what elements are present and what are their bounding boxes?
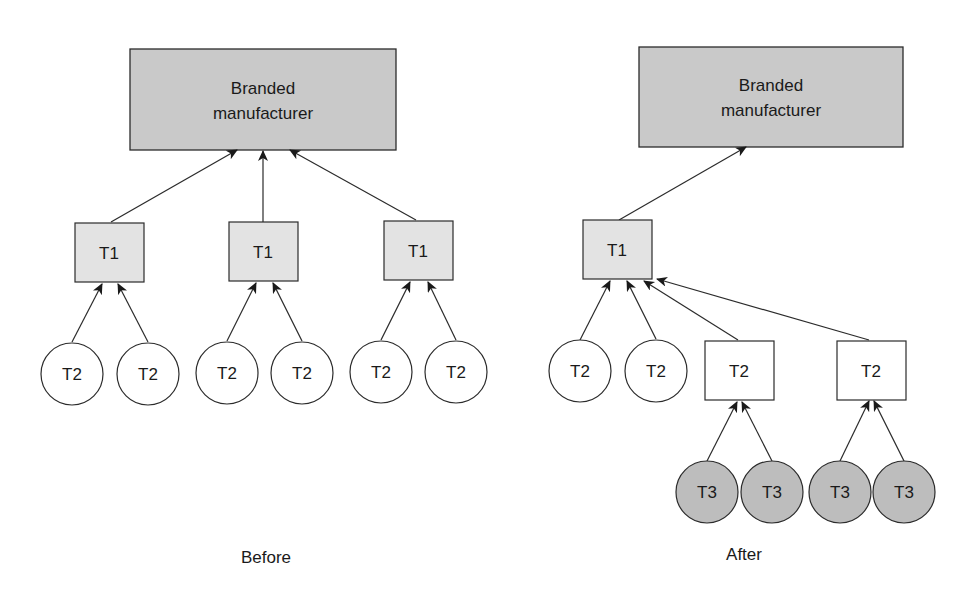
after-t2-circle-node-1: T2 — [549, 340, 611, 402]
after-t2-box-node-2: T2 — [837, 341, 906, 400]
after-t3-node-3: T3 — [809, 461, 871, 523]
before-t2-node-2: T2 — [117, 343, 179, 405]
before-t1-label-3: T1 — [408, 242, 428, 261]
after-t2-circle-label-2: T2 — [646, 362, 666, 381]
after-t1-edge — [619, 147, 746, 220]
before-t2-label-2: T2 — [138, 365, 158, 384]
after-t3-label-2: T3 — [762, 483, 782, 502]
after-t2-box-label-1: T2 — [729, 362, 749, 381]
supplier-network-diagram: Branded manufacturer T1 T1 T1 — [0, 0, 966, 590]
after-caption: After — [726, 545, 762, 564]
before-t1-node-1: T1 — [75, 223, 144, 282]
before-caption: Before — [241, 548, 291, 567]
before-t1-edges — [111, 150, 416, 222]
after-t2-box-label-2: T2 — [861, 362, 881, 381]
before-t1-node-3: T1 — [384, 221, 453, 280]
before-t1-label-2: T1 — [253, 243, 273, 262]
after-t3-node-1: T3 — [676, 461, 738, 523]
before-t2-label-5: T2 — [371, 363, 391, 382]
before-manufacturer-line1: Branded — [231, 79, 295, 98]
before-t2-node-3: T2 — [196, 342, 258, 404]
before-t2-label-3: T2 — [217, 364, 237, 383]
after-manufacturer-line2: manufacturer — [721, 101, 821, 120]
after-t1-label: T1 — [607, 241, 627, 260]
before-t2-node-6: T2 — [425, 341, 487, 403]
before-t2-label-6: T2 — [446, 363, 466, 382]
after-t2-circle-node-2: T2 — [625, 340, 687, 402]
after-t3-label-1: T3 — [697, 483, 717, 502]
before-t1-label-1: T1 — [99, 244, 119, 263]
after-t3-label-4: T3 — [894, 483, 914, 502]
before-manufacturer-line2: manufacturer — [213, 104, 313, 123]
after-t3-edges — [707, 401, 904, 461]
after-t2-edges — [580, 279, 869, 340]
after-t2-circle-label-1: T2 — [570, 362, 590, 381]
after-panel: Branded manufacturer T1 T2 T2 — [549, 47, 935, 564]
before-t2-label-1: T2 — [62, 365, 82, 384]
before-panel: Branded manufacturer T1 T1 T1 — [41, 49, 487, 567]
after-t3-label-3: T3 — [830, 483, 850, 502]
after-t1-node: T1 — [583, 220, 652, 279]
before-t2-node-1: T2 — [41, 343, 103, 405]
after-manufacturer-node: Branded manufacturer — [639, 47, 903, 147]
before-manufacturer-node: Branded manufacturer — [130, 49, 396, 150]
before-t2-edges — [72, 282, 456, 342]
after-manufacturer-line1: Branded — [739, 76, 803, 95]
before-t2-label-4: T2 — [292, 364, 312, 383]
after-t3-node-4: T3 — [873, 461, 935, 523]
before-t1-node-2: T1 — [229, 222, 298, 281]
before-t2-node-5: T2 — [350, 341, 412, 403]
before-t2-node-4: T2 — [271, 342, 333, 404]
after-t3-node-2: T3 — [741, 461, 803, 523]
after-t2-box-node-1: T2 — [705, 341, 774, 400]
